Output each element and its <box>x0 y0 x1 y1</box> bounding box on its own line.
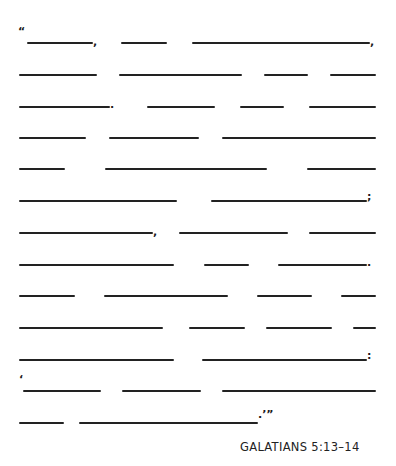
answer-blank[interactable] <box>79 422 258 424</box>
answer-blank[interactable] <box>122 390 201 392</box>
answer-blank[interactable] <box>257 295 312 297</box>
scripture-reference: GALATIANS 5:13–14 <box>240 440 360 454</box>
answer-blank[interactable] <box>19 264 174 266</box>
answer-blank[interactable] <box>179 232 288 234</box>
answer-blank[interactable] <box>19 295 75 297</box>
answer-blank[interactable] <box>192 42 370 44</box>
answer-blank[interactable] <box>278 264 367 266</box>
answer-blank[interactable] <box>19 106 110 108</box>
answer-blank[interactable] <box>109 137 199 139</box>
answer-blank[interactable] <box>341 295 376 297</box>
answer-blank[interactable] <box>222 390 376 392</box>
answer-blank[interactable] <box>353 327 376 329</box>
answer-blank[interactable] <box>240 106 284 108</box>
punctuation-mark: .’” <box>258 409 274 420</box>
answer-blank[interactable] <box>105 168 267 170</box>
answer-blank[interactable] <box>19 200 177 202</box>
answer-blank[interactable] <box>330 74 376 76</box>
punctuation-mark: , <box>370 36 374 47</box>
punctuation-mark: : <box>367 350 371 361</box>
answer-blank[interactable] <box>309 106 376 108</box>
punctuation-mark: , <box>153 226 157 237</box>
answer-blank[interactable] <box>19 422 64 424</box>
worksheet: “,,.;,.:‘.’” <box>0 0 396 466</box>
answer-blank[interactable] <box>222 137 376 139</box>
answer-blank[interactable] <box>19 168 65 170</box>
answer-blank[interactable] <box>307 168 376 170</box>
punctuation-mark: ; <box>367 191 371 202</box>
answer-blank[interactable] <box>119 74 242 76</box>
punctuation-mark: . <box>367 257 371 268</box>
answer-blank[interactable] <box>147 106 215 108</box>
answer-blank[interactable] <box>121 42 167 44</box>
answer-blank[interactable] <box>264 74 308 76</box>
answer-blank[interactable] <box>23 390 101 392</box>
answer-blank[interactable] <box>211 200 367 202</box>
answer-blank[interactable] <box>189 327 245 329</box>
answer-blank[interactable] <box>19 232 153 234</box>
punctuation-mark: “ <box>18 26 25 37</box>
punctuation-mark: . <box>110 99 114 110</box>
punctuation-mark: ‘ <box>19 374 23 385</box>
punctuation-mark: , <box>93 36 97 47</box>
answer-blank[interactable] <box>204 264 249 266</box>
answer-blank[interactable] <box>309 232 376 234</box>
answer-blank[interactable] <box>19 359 174 361</box>
answer-blank[interactable] <box>104 295 228 297</box>
answer-blank[interactable] <box>266 327 332 329</box>
answer-blank[interactable] <box>19 74 97 76</box>
answer-blank[interactable] <box>19 137 86 139</box>
answer-blank[interactable] <box>19 327 163 329</box>
answer-blank[interactable] <box>202 359 367 361</box>
answer-blank[interactable] <box>27 42 93 44</box>
